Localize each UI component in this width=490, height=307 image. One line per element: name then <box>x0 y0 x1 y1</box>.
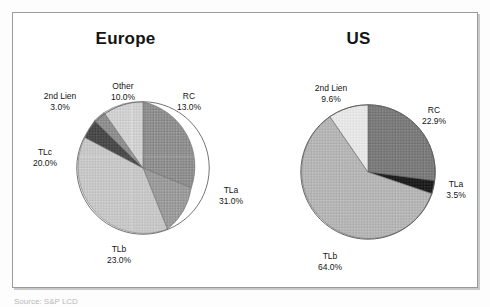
source-note: Source: S&P LCD <box>14 297 78 307</box>
pie-label-europe-tla: TLa 31.0% <box>209 185 253 206</box>
pie-europe-svg <box>74 99 212 237</box>
pie-label-europe-2nd-lien-pct: 3.0% <box>29 102 91 113</box>
pie-label-europe-2nd-lien: 2nd Lien 3.0% <box>29 91 91 112</box>
pie-label-us-2nd-lien-pct: 9.6% <box>300 94 362 105</box>
pie-label-europe-other-pct: 10.0% <box>97 92 149 103</box>
pie-label-europe-rc-pct: 13.0% <box>165 102 213 113</box>
pie-label-europe-tla-pct: 31.0% <box>209 196 253 207</box>
pie-label-us-2nd-lien-name: 2nd Lien <box>315 83 348 93</box>
pie-label-europe-tlc-name: TLc <box>38 147 52 157</box>
pie-label-us-tlb: TLb 64.0% <box>306 251 354 272</box>
pie-label-us-2nd-lien: 2nd Lien 9.6% <box>300 83 362 104</box>
pie-label-europe-tlb-pct: 23.0% <box>95 255 143 266</box>
pie-label-europe-2nd-lien-name: 2nd Lien <box>44 91 77 101</box>
pie-label-us-tla-pct: 3.5% <box>434 190 478 201</box>
pie-label-us-tla-name: TLa <box>449 179 464 189</box>
pie-label-europe-rc: RC 13.0% <box>165 91 213 112</box>
pie-label-europe-rc-name: RC <box>183 91 195 101</box>
pie-label-europe-tlb: TLb 23.0% <box>95 244 143 265</box>
pie-label-europe-other: Other 10.0% <box>97 81 149 102</box>
pie-label-us-tlb-name: TLb <box>323 251 338 261</box>
page-title-europe: Europe <box>3 29 248 49</box>
pie-label-europe-tlb-name: TLb <box>112 244 127 254</box>
pie-label-europe-tla-name: TLa <box>224 185 239 195</box>
chart-frame: Europe <box>12 12 478 288</box>
pie-label-europe-other-name: Other <box>112 81 133 91</box>
pie-label-europe-tlc-pct: 20.0% <box>21 158 69 169</box>
pie-label-us-tlb-pct: 64.0% <box>306 262 354 273</box>
chart-panel-us: US <box>258 13 479 287</box>
pie-label-us-rc-pct: 22.9% <box>410 116 458 127</box>
pie-chart-europe <box>74 99 212 237</box>
pie-label-europe-tlc: TLc 20.0% <box>21 147 69 168</box>
pie-label-us-tla: TLa 3.5% <box>434 179 478 200</box>
pie-label-us-rc-name: RC <box>428 105 440 115</box>
chart-panel-europe: Europe <box>13 13 258 287</box>
pie-label-us-rc: RC 22.9% <box>410 105 458 126</box>
page-title-us: US <box>248 29 469 49</box>
